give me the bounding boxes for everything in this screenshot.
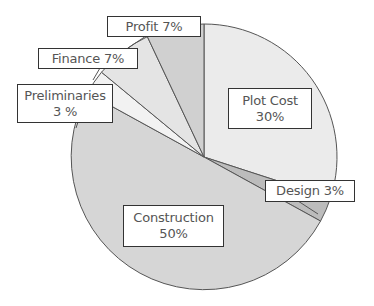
- label-plot-cost: Plot Cost 30%: [228, 88, 312, 129]
- label-preliminaries-name: Preliminaries: [24, 88, 106, 104]
- label-profit-text: Profit 7%: [126, 19, 183, 35]
- label-plot-cost-value: 30%: [256, 109, 284, 125]
- label-design: Design 3%: [265, 180, 355, 202]
- label-preliminaries: Preliminaries 3 %: [17, 84, 113, 123]
- label-profit: Profit 7%: [107, 16, 201, 37]
- label-preliminaries-value: 3 %: [53, 104, 77, 120]
- label-construction-name: Construction: [133, 210, 213, 226]
- label-construction: Construction 50%: [123, 205, 224, 247]
- label-finance-text: Finance 7%: [52, 51, 125, 67]
- label-plot-cost-name: Plot Cost: [242, 93, 298, 109]
- label-design-text: Design 3%: [276, 183, 344, 199]
- label-construction-value: 50%: [159, 226, 187, 242]
- label-finance: Finance 7%: [38, 48, 138, 69]
- pie-chart: [0, 0, 374, 306]
